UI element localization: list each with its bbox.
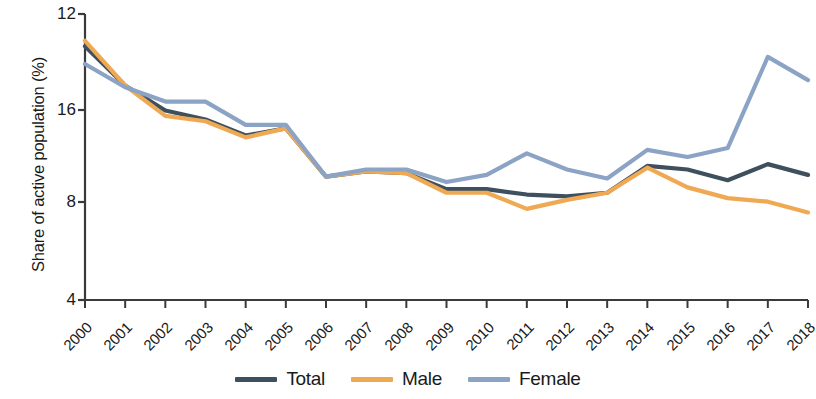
legend-label: Total [286,368,325,390]
chart-legend: TotalMaleFemale [0,368,816,390]
x-axis-tick-label: 2004 [211,318,256,363]
x-axis-tick-label: 2002 [131,318,176,363]
x-axis-tick-label: 2007 [332,318,377,363]
legend-item-female: Female [468,368,581,390]
x-axis-tick-label: 2000 [50,318,95,363]
line-swatch-icon [468,377,510,382]
line-swatch-icon [235,377,277,382]
line-chart-figure: Share of active population (%) 121684 20… [0,0,816,399]
x-axis-tick-label: 2018 [773,318,816,363]
line-swatch-icon [351,377,393,382]
x-axis-tick-labels: 2000200120022003200420052006200720082009… [0,0,816,399]
x-axis-tick-label: 2006 [291,318,336,363]
x-axis-tick-label: 2011 [492,318,537,363]
legend-item-male: Male [351,368,442,390]
x-axis-tick-label: 2012 [532,318,577,363]
x-axis-tick-label: 2009 [412,318,457,363]
legend-label: Female [519,368,581,390]
legend-label: Male [402,368,442,390]
x-axis-tick-label: 2003 [171,318,216,363]
x-axis-tick-label: 2016 [693,318,738,363]
x-axis-tick-label: 2010 [452,318,497,363]
legend-item-total: Total [235,368,325,390]
x-axis-tick-label: 2017 [733,318,778,363]
x-axis-tick-label: 2015 [653,318,698,363]
x-axis-tick-label: 2013 [573,318,618,363]
x-axis-tick-label: 2008 [372,318,417,363]
x-axis-tick-label: 2005 [251,318,296,363]
x-axis-tick-label: 2001 [91,318,136,363]
x-axis-tick-label: 2014 [613,318,658,363]
